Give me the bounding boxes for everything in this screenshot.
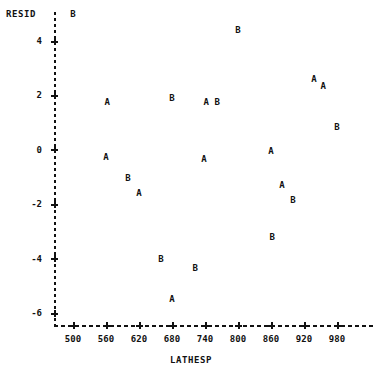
y-axis-line bbox=[54, 12, 56, 326]
data-point-a: A bbox=[136, 189, 141, 198]
x-tick-mark bbox=[202, 322, 209, 329]
y-tick-mark bbox=[51, 146, 58, 153]
x-tick-mark bbox=[235, 322, 242, 329]
data-point-b: B bbox=[269, 232, 274, 241]
data-point-a: A bbox=[321, 81, 326, 90]
x-tick-mark bbox=[70, 322, 77, 329]
x-tick-mark bbox=[169, 322, 176, 329]
y-tick-mark bbox=[51, 310, 58, 317]
data-point-b: B bbox=[334, 122, 339, 131]
data-point-a: A bbox=[268, 147, 273, 156]
data-point-b: B bbox=[169, 94, 174, 103]
x-axis-title: LATHESP bbox=[170, 355, 212, 365]
y-tick-mark bbox=[51, 92, 58, 99]
y-tick-label: 2 bbox=[12, 90, 42, 100]
y-tick-mark bbox=[51, 38, 58, 45]
plot-area: RESID LATHESP 420-2-4-650056062068074080… bbox=[0, 0, 377, 381]
y-tick-label: -4 bbox=[12, 254, 42, 264]
data-point-b: B bbox=[158, 254, 163, 263]
data-point-a: A bbox=[203, 98, 208, 107]
x-tick-mark bbox=[136, 322, 143, 329]
data-point-a: A bbox=[311, 75, 316, 84]
x-tick-mark bbox=[334, 322, 341, 329]
data-point-b: B bbox=[290, 196, 295, 205]
y-axis-title: RESID bbox=[6, 9, 36, 19]
data-point-a: A bbox=[103, 152, 108, 161]
data-point-a: A bbox=[201, 155, 206, 164]
data-point-b: B bbox=[214, 98, 219, 107]
data-point-a: A bbox=[169, 295, 174, 304]
data-point-b: B bbox=[235, 26, 240, 35]
x-tick-label: 980 bbox=[317, 334, 357, 344]
residual-scatter-plot: RESID LATHESP 420-2-4-650056062068074080… bbox=[0, 0, 377, 381]
data-point-b: B bbox=[125, 174, 130, 183]
data-point-a: A bbox=[104, 98, 109, 107]
x-tick-mark bbox=[103, 322, 110, 329]
x-tick-mark bbox=[268, 322, 275, 329]
data-point-b: B bbox=[192, 264, 197, 273]
data-point-b: B bbox=[70, 9, 75, 18]
y-tick-label: 4 bbox=[12, 36, 42, 46]
y-tick-label: -2 bbox=[12, 199, 42, 209]
x-tick-mark bbox=[301, 322, 308, 329]
data-point-a: A bbox=[279, 181, 284, 190]
y-tick-mark bbox=[51, 255, 58, 262]
y-tick-label: 0 bbox=[12, 145, 42, 155]
y-tick-label: -6 bbox=[12, 308, 42, 318]
y-tick-mark bbox=[51, 201, 58, 208]
